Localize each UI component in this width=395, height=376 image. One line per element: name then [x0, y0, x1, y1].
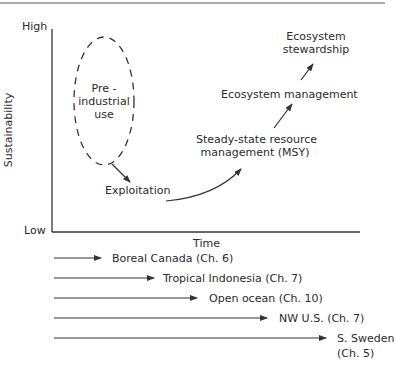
- arrow-to-stewardship: [301, 64, 313, 80]
- stewardship-line-2: stewardship: [280, 43, 352, 56]
- pre-industrial-line-1: Pre -: [78, 82, 130, 95]
- arrow-to-exploitation: [112, 164, 130, 182]
- ecosystem-management-label: Ecosystem management: [221, 88, 358, 101]
- pre-industrial-line-3: use: [78, 108, 130, 121]
- stewardship-line-1: Ecosystem: [280, 30, 352, 43]
- steady-state-line-2: management (MSY): [196, 146, 314, 159]
- s-sweden-line-2: (Ch. 5): [337, 347, 394, 360]
- y-axis-high-label: High: [22, 20, 47, 33]
- region-label-boreal-canada: Boreal Canada (Ch. 6): [112, 252, 233, 265]
- y-axis-low-label: Low: [24, 224, 46, 237]
- arrow-to-ecosystem-management: [274, 104, 292, 128]
- steady-state-line-1: Steady-state resource: [196, 133, 314, 146]
- region-label-open-ocean: Open ocean (Ch. 10): [209, 292, 323, 305]
- exploitation-label: Exploitation: [105, 184, 170, 197]
- region-label-s-sweden: S. Sweden (Ch. 5): [337, 332, 394, 360]
- ecosystem-stewardship-label: Ecosystem stewardship: [280, 30, 352, 56]
- pre-industrial-label: Pre - industrial use: [78, 82, 130, 121]
- x-axis-title: Time: [193, 237, 220, 250]
- region-label-tropical-indonesia: Tropical Indonesia (Ch. 7): [163, 272, 302, 285]
- y-axis-title: Sustainability: [2, 80, 15, 180]
- steady-state-label: Steady-state resource management (MSY): [196, 133, 314, 159]
- region-label-nw-us: NW U.S. (Ch. 7): [279, 312, 364, 325]
- arrow-to-steady-state: [166, 169, 241, 201]
- s-sweden-line-1: S. Sweden: [337, 332, 394, 345]
- pre-industrial-line-2: industrial: [78, 95, 130, 108]
